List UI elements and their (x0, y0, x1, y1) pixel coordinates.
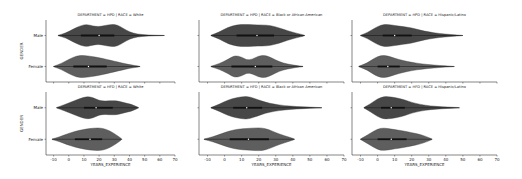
y-tick-label: Male (34, 105, 44, 110)
median-marker (98, 35, 99, 36)
x-tick-label: 70 (494, 157, 500, 162)
median-marker (95, 107, 96, 108)
y-tick-label: Female (29, 64, 44, 69)
x-tick-label: 50 (460, 157, 466, 162)
y-axis-label: GENDER (19, 115, 24, 132)
x-tick-label: 10 (239, 157, 245, 162)
x-axis-label: YEARS_EXPERIENCE (403, 162, 445, 167)
x-tick-label: 10 (392, 157, 398, 162)
facet-panel: DEPARTMENT = HFD | RACE = WhiteMaleFemal… (19, 85, 178, 167)
median-marker (391, 139, 392, 140)
x-tick-label: 50 (307, 157, 313, 162)
panel-title: DEPARTMENT = HPD | RACE = Hispanic/Latin… (383, 13, 466, 17)
x-tick-label: 0 (67, 157, 70, 162)
facet-panel: DEPARTMENT = HPD | RACE = Hispanic/Latin… (351, 13, 498, 84)
median-marker (89, 139, 90, 140)
x-tick-label: 60 (324, 157, 330, 162)
facet-panel: DEPARTMENT = HPD | RACE = Black or Afric… (198, 13, 345, 84)
facet-panel: DEPARTMENT = HPD | RACE = WhiteMaleFemal… (19, 13, 175, 84)
y-tick-label: Male (34, 33, 44, 38)
x-tick-label: 60 (477, 157, 483, 162)
median-marker (248, 139, 249, 140)
x-tick-label: 0 (376, 157, 379, 162)
median-marker (394, 35, 395, 36)
violin-facet-chart: DEPARTMENT = HPD | RACE = WhiteMaleFemal… (0, 0, 522, 179)
median-marker (256, 35, 257, 36)
panel-title: DEPARTMENT = HFD | RACE = Black or Afric… (221, 85, 323, 89)
x-tick-label: 0 (223, 157, 226, 162)
x-tick-label: -10 (204, 157, 211, 162)
facet-panel: DEPARTMENT = HFD | RACE = Hispanic/Latin… (351, 85, 500, 167)
panel-title: DEPARTMENT = HFD | RACE = White (78, 85, 145, 89)
x-tick-label: 10 (81, 157, 87, 162)
median-marker (255, 66, 256, 67)
x-tick-label: 70 (341, 157, 347, 162)
median-marker (246, 107, 247, 108)
facet-panel: DEPARTMENT = HFD | RACE = Black or Afric… (198, 85, 347, 167)
x-tick-label: 60 (157, 157, 163, 162)
x-axis-label: YEARS_EXPERIENCE (250, 162, 292, 167)
x-tick-label: 50 (142, 157, 148, 162)
panel-title: DEPARTMENT = HPD | RACE = White (78, 13, 145, 17)
median-marker (88, 66, 89, 67)
median-marker (391, 107, 392, 108)
median-marker (387, 66, 388, 67)
x-tick-label: 70 (172, 157, 178, 162)
panel-title: DEPARTMENT = HPD | RACE = Black or Afric… (221, 13, 323, 17)
panel-title: DEPARTMENT = HFD | RACE = Hispanic/Latin… (383, 85, 466, 89)
y-tick-label: Female (29, 137, 44, 142)
y-axis-label: GENDER (19, 42, 24, 59)
x-tick-label: -10 (357, 157, 364, 162)
x-axis-label: YEARS_EXPERIENCE (89, 162, 131, 167)
x-tick-label: -10 (50, 157, 57, 162)
